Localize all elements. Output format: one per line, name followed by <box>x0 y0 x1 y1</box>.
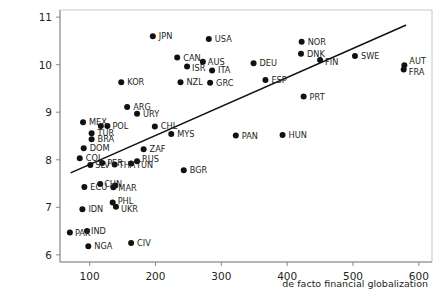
plot-area: 67891011 100200300400500600 JPNUSANORCAN… <box>0 0 435 300</box>
data-point <box>174 55 180 61</box>
data-point <box>262 77 268 83</box>
y-tick-label: 10 <box>39 59 52 71</box>
point-label: FIN <box>325 57 338 67</box>
data-point <box>89 136 95 142</box>
y-tick-label: 6 <box>45 249 52 261</box>
data-point <box>124 104 130 110</box>
point-label: PAK <box>75 228 91 238</box>
point-label: MEX <box>89 117 107 127</box>
data-point <box>206 36 212 42</box>
point-label: SLV <box>95 160 110 170</box>
point-label: KOR <box>127 77 144 87</box>
point-label: THA <box>118 160 136 170</box>
x-tick-label: 100 <box>80 270 100 282</box>
point-label: UKR <box>121 204 138 214</box>
point-label: DNK <box>307 49 325 59</box>
data-point <box>207 80 213 86</box>
x-axis-title: de facto financial globalization <box>282 278 428 289</box>
point-label: USA <box>215 34 232 44</box>
data-point <box>233 133 239 139</box>
point-label: NOR <box>308 37 327 47</box>
point-label: PRT <box>310 92 326 102</box>
data-point <box>79 206 85 212</box>
point-label: AUT <box>409 56 427 66</box>
data-point <box>177 79 183 85</box>
point-label: CHL <box>161 121 178 131</box>
data-point <box>352 53 358 59</box>
point-label: ESP <box>271 75 286 85</box>
data-point <box>251 60 257 66</box>
data-point <box>401 66 407 72</box>
point-label: BGR <box>190 165 208 175</box>
x-tick-label: 200 <box>145 270 165 282</box>
data-point <box>184 64 190 70</box>
point-label: NGA <box>94 241 112 251</box>
trend-line <box>71 25 405 172</box>
data-point <box>209 67 215 73</box>
point-label: JPN <box>158 31 172 41</box>
point-label: ISR <box>192 63 206 73</box>
point-label: ITA <box>218 65 231 75</box>
point-label: TUN <box>135 160 153 170</box>
point-label: IND <box>91 226 106 236</box>
y-tick-label: 9 <box>45 106 52 118</box>
point-label: DOM <box>90 143 110 153</box>
data-point <box>89 130 95 136</box>
y-tick-label: 8 <box>45 154 52 166</box>
data-point <box>152 123 158 129</box>
point-label: PAN <box>242 131 258 141</box>
point-label: GRC <box>216 78 234 88</box>
y-tick-label: 7 <box>45 201 52 213</box>
data-points <box>67 33 407 249</box>
point-label: NZL <box>186 77 203 87</box>
point-label: ECU <box>90 182 107 192</box>
data-point <box>77 155 83 161</box>
data-point <box>80 119 86 125</box>
data-point <box>301 94 307 100</box>
data-point <box>150 33 156 39</box>
point-label: POL <box>112 121 128 131</box>
point-label: DEU <box>260 58 277 68</box>
data-point <box>280 132 286 138</box>
data-point <box>81 184 87 190</box>
point-label: IDN <box>88 204 103 214</box>
point-label: MAR <box>118 183 137 193</box>
scatter-chart: 67891011 100200300400500600 JPNUSANORCAN… <box>0 0 435 300</box>
data-point <box>298 51 304 57</box>
point-label: CIV <box>137 238 151 248</box>
point-label: FRA <box>409 67 425 77</box>
point-label: URY <box>143 109 160 119</box>
data-point <box>128 240 134 246</box>
data-point <box>299 39 305 45</box>
point-label: SWE <box>361 51 379 61</box>
y-axis: 67891011 <box>39 10 60 262</box>
data-point <box>81 145 87 151</box>
data-point <box>181 167 187 173</box>
regression-line <box>71 25 405 172</box>
point-label: ZAF <box>150 144 166 154</box>
point-label: MYS <box>177 129 194 139</box>
point-label: HUN <box>289 130 307 140</box>
data-point <box>118 79 124 85</box>
data-point <box>67 230 73 236</box>
x-tick-label: 300 <box>211 270 231 282</box>
data-point <box>141 146 147 152</box>
y-tick-label: 11 <box>39 11 52 23</box>
data-point <box>168 131 174 137</box>
point-label: CAN <box>183 53 200 63</box>
data-point <box>85 243 91 249</box>
